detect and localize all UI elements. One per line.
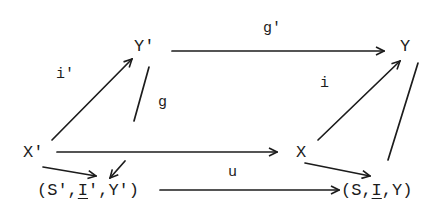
node-y-prime: Y' [134,38,154,55]
node-triple-prime: (S',I',Υ') [37,182,139,199]
node-triple: (S,I,Υ) [341,182,412,199]
triple-prime-rest: ',Υ') [88,181,139,200]
arrow-x-to-triple [305,163,370,176]
triple-open: (S, [341,181,372,200]
triple-i: I [372,181,382,200]
triple-prime-i: I [78,181,88,200]
label-g: g [158,95,167,110]
triple-rest: ,Υ) [382,181,413,200]
node-x: X [296,144,306,161]
arrow-x-prime-to-triple-prime [43,167,96,176]
commutative-diagram: Y' Y X' X (S',I',Υ') (S,I,Υ) g' i' g i u [0,0,439,218]
arrow-i [318,61,400,140]
label-i: i [320,76,329,91]
label-g-prime: g' [263,21,281,36]
arrow-y-to-triple [388,63,418,160]
arrow-y-prime-to-triple-prime-lower [110,161,125,178]
triple-prime-open: (S', [37,181,78,200]
label-u: u [228,165,237,180]
label-i-prime: i' [56,67,74,82]
node-x-prime: X' [23,144,43,161]
node-y: Y [400,38,410,55]
arrow-y-prime-to-triple-prime-upper [134,67,149,121]
